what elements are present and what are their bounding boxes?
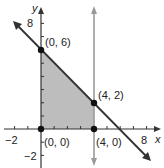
label-point-4-2: (4, 2) <box>98 89 124 101</box>
point-4-0 <box>91 126 97 132</box>
x-axis-arrow-icon <box>154 126 161 132</box>
point-0-0 <box>38 126 44 132</box>
shaded-region <box>41 50 94 129</box>
line-x-plus-y-equals-6 <box>13 21 151 161</box>
tick-label-y-neg2: −2 <box>24 150 37 162</box>
label-point-0-0: (0, 0) <box>44 136 70 148</box>
tick-label-x-neg2: −2 <box>5 134 18 146</box>
tick-label-y-8: 8 <box>27 17 33 29</box>
down-arrow-icon <box>91 158 97 166</box>
y-axis-label: y <box>31 2 39 14</box>
feasible-region-graph: y x 8 −2 −2 8 (0, 6) (4, 2) (0, 0) (4, 0… <box>0 0 164 168</box>
tick-label-x-8: 8 <box>141 134 147 146</box>
label-point-0-6: (0, 6) <box>45 36 71 48</box>
label-point-4-0: (4, 0) <box>96 136 122 148</box>
point-4-2 <box>91 100 97 106</box>
x-axis-label: x <box>154 133 161 145</box>
point-0-6 <box>38 47 44 53</box>
y-axis-arrow-icon <box>38 7 44 14</box>
up-arrow-icon <box>91 6 97 14</box>
